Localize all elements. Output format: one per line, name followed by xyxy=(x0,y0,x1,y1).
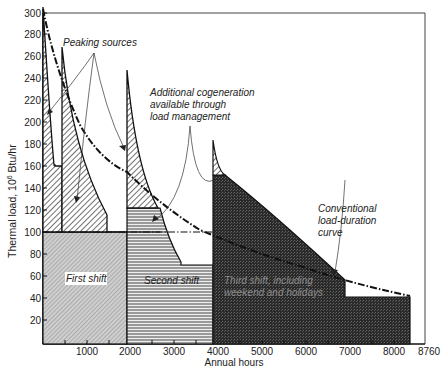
y-tick-label: 240 xyxy=(24,73,41,84)
conventional-curve-label-line3: curve xyxy=(318,227,343,238)
first-shift-base xyxy=(43,232,127,344)
y-tick-label: 20 xyxy=(30,315,42,326)
x-tick-label: 6000 xyxy=(295,346,318,357)
y-tick-label: 40 xyxy=(30,293,42,304)
y-tick-label: 300 xyxy=(24,8,41,19)
x-tick-label: 5000 xyxy=(251,346,274,357)
y-tick-label: 120 xyxy=(24,205,41,216)
cogeneration-label-line3: load management xyxy=(150,111,231,122)
x-tick-label: 4000 xyxy=(207,346,230,357)
conventional-curve-label-line2: load-duration xyxy=(318,215,377,226)
cogeneration-label-line1: Additional cogeneration xyxy=(149,87,255,98)
x-tick-label: 7000 xyxy=(339,346,362,357)
y-axis-label: Thermal load, 106 Btu/hr xyxy=(6,144,18,258)
y-tick-label: 220 xyxy=(24,95,41,106)
y-tick-label: 280 xyxy=(24,29,41,40)
y-tick-label: 80 xyxy=(30,249,42,260)
x-axis-label: Annual hours xyxy=(205,357,264,368)
second-shift-label: Second shift xyxy=(144,275,200,286)
third-shift-label-line2: weekend and holidays xyxy=(224,287,323,298)
first-shift-label: First shift xyxy=(66,273,108,284)
first-shift-peak-1 xyxy=(43,7,62,232)
y-tick-label: 180 xyxy=(24,139,41,150)
y-tick-label: 140 xyxy=(24,183,41,194)
x-tick-label: 1000 xyxy=(76,346,99,357)
conventional-curve-label-line1: Conventional xyxy=(318,203,377,214)
y-tick-label: 160 xyxy=(24,161,41,172)
cogeneration-label-line2: available through xyxy=(150,99,227,110)
y-tick-label: 200 xyxy=(24,117,41,128)
y-tick-label: 60 xyxy=(30,271,42,282)
x-tick-label: 8000 xyxy=(383,346,406,357)
third-shift-area xyxy=(213,175,410,344)
y-tick-label: 260 xyxy=(24,51,41,62)
x-tick-label: 8760 xyxy=(418,346,441,357)
x-tick-label: 3000 xyxy=(163,346,186,357)
third-shift-peak xyxy=(213,140,225,175)
y-tick-label: 100 xyxy=(24,227,41,238)
x-tick-label: 2000 xyxy=(119,346,142,357)
first-shift-peak-2 xyxy=(62,47,107,232)
peaking-sources-label: Peaking sources xyxy=(63,37,137,48)
third-shift-label-line1: Third shift, including xyxy=(224,275,313,286)
load-duration-chart: Peaking sources Additional cogeneration … xyxy=(0,0,445,371)
